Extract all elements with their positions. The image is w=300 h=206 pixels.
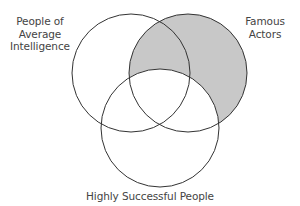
label-highly-successful: Highly Successful People: [70, 190, 230, 203]
label-line: People of: [2, 15, 78, 28]
label-line: Famous: [232, 15, 298, 28]
label-line: Highly Successful People: [70, 190, 230, 203]
label-famous-actors: Famous Actors: [232, 15, 298, 40]
label-average-intelligence: People of Average Intelligence: [2, 15, 78, 53]
label-line: Average: [2, 28, 78, 41]
label-line: Intelligence: [2, 40, 78, 53]
label-line: Actors: [232, 28, 298, 41]
shaded-region-actors-not-successful: [129, 14, 247, 132]
